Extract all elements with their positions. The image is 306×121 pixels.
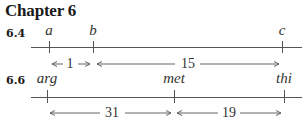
- distance-b-c: 15: [178, 57, 198, 71]
- distance-a-b: 1: [64, 57, 77, 71]
- distance-arg-met: 31: [102, 106, 122, 120]
- distance-met-thi: 19: [219, 106, 239, 120]
- dimension-arrows: [0, 0, 306, 121]
